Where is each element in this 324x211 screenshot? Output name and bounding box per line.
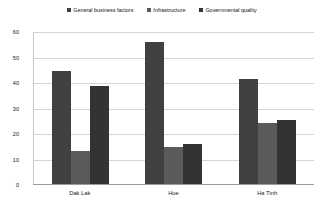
y-axis-tick-label: 10	[0, 157, 19, 163]
bar[interactable]	[164, 147, 183, 184]
plot-area: 0102030405060	[33, 32, 314, 185]
bar[interactable]	[239, 79, 258, 184]
bar[interactable]	[258, 123, 277, 184]
x-axis-category-label: Hue	[127, 190, 221, 197]
legend-label: General business factors	[73, 7, 133, 13]
y-axis-tick-label: 30	[0, 106, 19, 112]
y-axis-tick-label: 40	[0, 80, 19, 86]
legend-label: Infrastructure	[153, 7, 185, 13]
bar-groups	[34, 32, 314, 184]
bar-group	[127, 32, 220, 184]
legend-label: Governmental quality	[205, 7, 256, 13]
legend-swatch-icon	[67, 8, 71, 12]
chart-legend: General business factors Infrastructure …	[0, 7, 324, 13]
y-axis-tick-label: 20	[0, 131, 19, 137]
bar[interactable]	[71, 151, 90, 184]
legend-item-general-business-factors[interactable]: General business factors	[67, 7, 133, 13]
bar[interactable]	[145, 42, 164, 184]
legend-item-governmental-quality[interactable]: Governmental quality	[199, 7, 256, 13]
x-axis-category-label: Ha Tinh	[220, 190, 314, 197]
legend-swatch-icon	[199, 8, 203, 12]
legend-item-infrastructure[interactable]: Infrastructure	[147, 7, 185, 13]
bar[interactable]	[90, 86, 109, 184]
y-axis-tick-label: 50	[0, 55, 19, 61]
bar-group	[34, 32, 127, 184]
x-axis-labels: Dak LakHueHa Tinh	[33, 190, 314, 197]
x-axis-category-label: Dak Lak	[33, 190, 127, 197]
bar[interactable]	[277, 120, 296, 184]
y-axis-tick-label: 60	[0, 29, 19, 35]
bar[interactable]	[52, 71, 71, 184]
bar[interactable]	[183, 144, 202, 184]
bar-group	[221, 32, 314, 184]
bar-chart: General business factors Infrastructure …	[0, 0, 324, 211]
legend-swatch-icon	[147, 8, 151, 12]
y-axis-tick-label: 0	[0, 182, 19, 188]
